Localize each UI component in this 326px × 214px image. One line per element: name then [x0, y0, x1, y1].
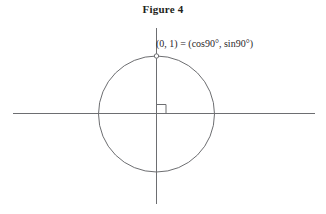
point-marker-0-1: [154, 54, 158, 58]
point-coordinate-label: (0, 1) = (cos90°, sin90°): [156, 38, 253, 50]
unit-circle-diagram: [0, 0, 326, 214]
right-angle-marker: [157, 105, 167, 114]
figure-canvas: Figure 4 (0, 1) = (cos90°, sin90°): [0, 0, 326, 214]
